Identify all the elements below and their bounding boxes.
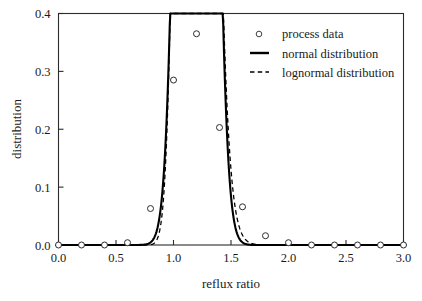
y-tick-label: 0.1 — [35, 181, 51, 195]
process-data-point — [171, 77, 177, 83]
process-data-point — [79, 242, 85, 248]
process-data-point — [102, 242, 108, 248]
y-axis-title: distribution — [9, 99, 24, 159]
distribution-chart: 0.00.51.01.52.02.53.0 0.00.10.20.30.4 re… — [0, 0, 422, 301]
y-tick-labels: 0.00.10.20.30.4 — [35, 7, 51, 253]
process-data-point — [378, 242, 384, 248]
chart-legend: process data normal distribution lognorm… — [250, 27, 395, 80]
process-data-point — [263, 233, 269, 239]
y-tick-label: 0.0 — [35, 239, 51, 253]
process-data-point — [355, 242, 361, 248]
legend-marker-process-data-icon — [256, 31, 262, 37]
x-tick-label: 1.0 — [166, 251, 182, 265]
legend-label-normal-distribution: normal distribution — [282, 47, 379, 61]
x-tick-label: 0.0 — [51, 251, 67, 265]
process-data-point — [56, 242, 62, 248]
x-tick-label: 1.5 — [223, 251, 239, 265]
legend-label-lognormal-distribution: lognormal distribution — [282, 66, 395, 80]
process-data-markers — [56, 31, 407, 248]
y-tick-label: 0.3 — [35, 65, 51, 79]
x-tick-label: 3.0 — [396, 251, 412, 265]
process-data-point — [217, 125, 223, 131]
process-data-point — [194, 31, 200, 37]
y-tick-label: 0.4 — [35, 7, 51, 21]
process-data-point — [125, 240, 131, 246]
legend-label-process-data: process data — [282, 27, 344, 41]
process-data-point — [240, 204, 246, 210]
process-data-point — [148, 206, 154, 212]
x-tick-label: 2.0 — [281, 251, 297, 265]
process-data-point — [309, 242, 315, 248]
x-tick-labels: 0.00.51.01.52.02.53.0 — [51, 251, 412, 265]
process-data-point — [286, 240, 292, 246]
process-data-point — [401, 242, 407, 248]
x-tick-label: 0.5 — [108, 251, 124, 265]
x-axis-title: reflux ratio — [202, 276, 260, 291]
y-axis-ticks — [59, 14, 64, 246]
y-tick-label: 0.2 — [35, 123, 51, 137]
chart-figure: 0.00.51.01.52.02.53.0 0.00.10.20.30.4 re… — [0, 0, 422, 301]
x-tick-label: 2.5 — [338, 251, 354, 265]
process-data-point — [332, 242, 338, 248]
